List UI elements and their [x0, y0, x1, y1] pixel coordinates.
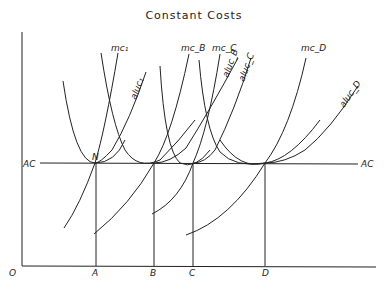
- mcB-label: mc_B: [181, 43, 205, 53]
- aluc1-label: aluc₁: [128, 76, 145, 101]
- u-curve-b: [160, 66, 210, 165]
- point-b-label: B: [150, 268, 156, 278]
- point-a-label: A: [91, 268, 98, 278]
- origin-label: O: [9, 268, 16, 278]
- mc1-label: mc₁: [111, 43, 129, 53]
- ac-left-label: AC: [22, 159, 36, 169]
- cost-diagram: O AC AC N A B C D mc₁ mc_B mc_C mc_D alu…: [0, 0, 388, 301]
- point-c-label: C: [189, 268, 196, 278]
- point-n-label: N: [92, 152, 99, 162]
- mc1-curve: [64, 53, 118, 228]
- point-d-label: D: [262, 268, 269, 278]
- mcD-curve: [186, 58, 306, 235]
- mcC-curve: [152, 54, 220, 214]
- x-axis: [22, 266, 376, 267]
- mcD-label: mc_D: [301, 43, 326, 53]
- ac-right-label: AC: [360, 159, 374, 169]
- u-curve-1: [63, 81, 125, 163]
- ac-line: [40, 163, 358, 164]
- u-curve-d: [220, 140, 265, 164]
- alucD-label: aluc_D: [337, 79, 362, 109]
- alucC-label: aluc_C: [236, 51, 256, 83]
